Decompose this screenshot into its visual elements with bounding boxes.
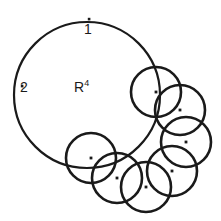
center-dot-6 [116, 177, 119, 180]
label-point-one: 1 [84, 22, 92, 36]
center-dot-3 [185, 141, 188, 144]
circle-packing-figure: 1 2 R4 [0, 0, 221, 221]
center-dot-1 [155, 91, 158, 94]
label-point-two: 2 [20, 80, 28, 94]
label-region-exponent: 4 [84, 78, 89, 88]
marked-point-1-dot [88, 18, 91, 21]
label-region-r4: R4 [74, 80, 89, 94]
figure-canvas [0, 0, 221, 221]
center-dot-4 [171, 170, 174, 173]
big-circle-R4 [14, 22, 160, 168]
center-dot-7 [90, 157, 93, 160]
label-region-base: R [74, 79, 84, 95]
center-dot-5 [145, 186, 148, 189]
center-dot-2 [179, 109, 182, 112]
